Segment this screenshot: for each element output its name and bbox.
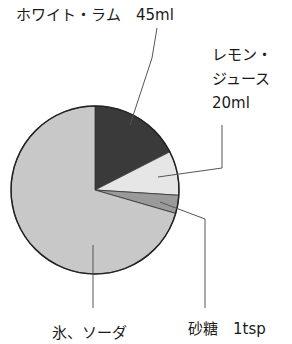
label-lemon-amount: 20ml [212,92,250,114]
label-lemon-line2: ジュース [212,68,270,90]
label-sugar: 砂糖 1tsp [188,318,266,340]
label-lemon-line1: レモン・ [212,44,272,66]
label-rum: ホワイト・ラム 45ml [16,4,174,26]
leader-line-rum [130,28,157,125]
label-ice-soda: 氷、ソーダ [52,322,127,344]
